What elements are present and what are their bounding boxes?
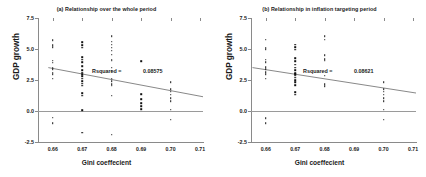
data-point xyxy=(294,44,296,46)
x-tick-label: 0.67 xyxy=(290,146,300,152)
data-point xyxy=(81,85,83,87)
data-point xyxy=(324,39,326,41)
data-point xyxy=(81,110,83,112)
data-point xyxy=(52,74,54,76)
data-point xyxy=(294,92,296,94)
x-axis-line-a xyxy=(38,142,204,143)
data-point xyxy=(383,119,385,121)
rsquared-label-a: Rsquared = xyxy=(92,68,122,74)
data-point xyxy=(265,59,267,61)
data-point xyxy=(81,41,83,43)
data-point xyxy=(81,92,83,94)
data-point xyxy=(265,61,267,63)
data-point xyxy=(170,94,172,96)
data-point xyxy=(81,56,83,58)
trendline-b xyxy=(251,18,416,142)
data-point xyxy=(81,47,83,49)
y-tick-mark xyxy=(35,49,38,50)
data-point xyxy=(294,79,296,81)
data-point xyxy=(111,85,113,87)
data-point xyxy=(170,89,172,91)
x-tick-label: 0.71 xyxy=(195,146,205,152)
chart-panel-a: (a) Relationship over the whole period G… xyxy=(0,0,213,177)
x-tick-label: 0.68 xyxy=(107,146,117,152)
rsquared-value-a: 0.08575 xyxy=(143,68,163,74)
x-tick-label: 0.68 xyxy=(320,146,330,152)
data-point xyxy=(81,95,83,97)
rsquared-value-b: 0.08621 xyxy=(354,68,374,74)
data-point xyxy=(111,44,113,46)
panel-title-b: (b) Relationship in inflation targeting … xyxy=(213,6,426,12)
data-point xyxy=(294,64,296,66)
plot-area-a: 7.55.02.50.0-2.50.660.670.680.690.700.71 xyxy=(38,18,203,142)
data-point xyxy=(140,61,142,63)
x-tick-mark xyxy=(200,18,201,21)
data-point xyxy=(294,94,296,96)
data-point xyxy=(170,109,172,111)
data-point xyxy=(294,61,296,63)
data-point xyxy=(81,59,83,61)
x-tick-mark xyxy=(295,18,296,21)
data-point xyxy=(170,119,172,121)
zero-reference-line xyxy=(38,111,203,112)
data-point xyxy=(265,74,267,76)
x-tick-label: 0.70 xyxy=(166,146,176,152)
x-axis-line-b xyxy=(251,142,417,143)
x-tick-mark xyxy=(325,18,326,21)
data-point xyxy=(52,69,54,71)
data-point xyxy=(140,93,142,95)
chart-panel-b: (b) Relationship in inflation targeting … xyxy=(213,0,426,177)
y-tick-mark xyxy=(248,18,251,19)
data-point xyxy=(111,95,113,97)
data-point xyxy=(170,97,172,99)
x-tick-mark xyxy=(112,18,113,21)
y-tick-mark xyxy=(248,49,251,50)
data-point xyxy=(52,117,54,119)
zero-reference-line xyxy=(251,111,416,112)
data-point xyxy=(294,77,296,79)
x-tick-mark xyxy=(171,18,172,21)
data-point xyxy=(294,82,296,84)
data-point xyxy=(81,75,83,77)
trendline-a xyxy=(38,18,203,142)
x-tick-label: 0.70 xyxy=(379,146,389,152)
data-point xyxy=(52,78,54,80)
x-tick-mark xyxy=(413,18,414,21)
data-point xyxy=(81,78,83,80)
y-tick-mark xyxy=(35,18,38,19)
data-point xyxy=(111,80,113,82)
data-point xyxy=(324,35,326,37)
x-tick-label: 0.69 xyxy=(349,146,359,152)
data-point xyxy=(52,62,54,64)
x-tick-mark xyxy=(141,18,142,21)
data-point xyxy=(140,108,142,110)
y-tick-mark xyxy=(35,80,38,81)
data-point xyxy=(294,84,296,86)
data-point xyxy=(265,71,267,73)
x-axis-label-a: Gini coeffecient xyxy=(0,159,213,166)
data-point xyxy=(294,49,296,51)
data-point xyxy=(383,91,385,93)
figure-container: (a) Relationship over the whole period G… xyxy=(0,0,426,177)
x-tick-label: 0.66 xyxy=(261,146,271,152)
data-point xyxy=(265,66,267,68)
data-point xyxy=(170,100,172,102)
y-axis-label-b: GDP growth xyxy=(225,12,234,102)
data-point xyxy=(294,46,296,48)
data-point xyxy=(324,85,326,87)
x-tick-label: 0.69 xyxy=(136,146,146,152)
data-point xyxy=(383,89,385,91)
data-point xyxy=(52,123,54,125)
x-tick-label: 0.66 xyxy=(48,146,58,152)
data-point xyxy=(81,61,83,63)
x-axis-label-b: Gini coeffecient xyxy=(213,159,426,166)
data-point xyxy=(383,97,385,99)
data-point xyxy=(81,132,83,134)
data-point xyxy=(383,94,385,96)
data-point xyxy=(170,91,172,93)
data-point xyxy=(81,69,83,71)
data-point xyxy=(81,66,83,68)
data-point xyxy=(111,54,113,56)
data-point xyxy=(111,35,113,37)
data-point xyxy=(324,60,326,62)
